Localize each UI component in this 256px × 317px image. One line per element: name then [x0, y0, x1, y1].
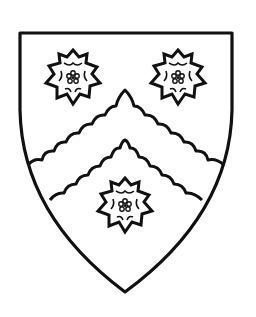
coat-of-arms: [0, 0, 256, 317]
